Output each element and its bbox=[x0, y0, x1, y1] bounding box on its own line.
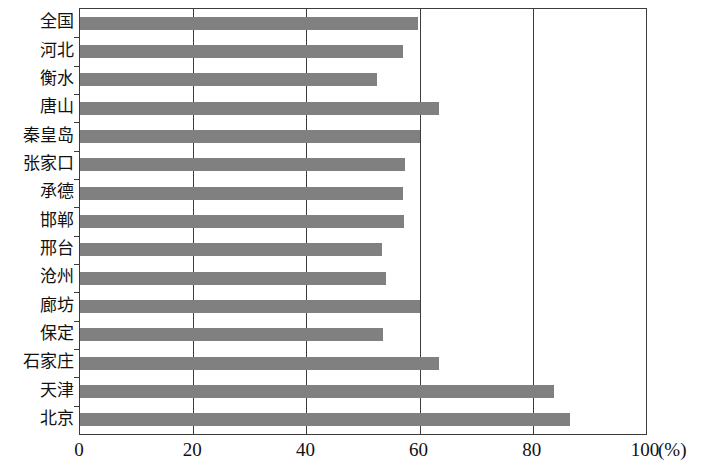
value-tick-label: 100 bbox=[631, 437, 660, 463]
horizontal-bar-chart: 全国河北衡水唐山秦皇岛张家口承德邯郸邢台沧州廊坊保定石家庄天津北京 (%) 02… bbox=[0, 0, 715, 470]
value-tick-label: 40 bbox=[296, 437, 315, 463]
category-tick bbox=[74, 207, 80, 208]
category-tick bbox=[74, 66, 80, 67]
bar bbox=[80, 385, 554, 398]
value-tick-label: 60 bbox=[409, 437, 428, 463]
gridline bbox=[533, 9, 534, 434]
bar bbox=[80, 272, 386, 285]
axis-unit-label: (%) bbox=[658, 437, 686, 463]
category-label: 张家口 bbox=[0, 154, 74, 174]
bar bbox=[80, 328, 383, 341]
value-tick-label: 20 bbox=[183, 437, 202, 463]
category-label: 承德 bbox=[0, 182, 74, 202]
bar bbox=[80, 300, 420, 313]
category-tick bbox=[74, 37, 80, 38]
category-label: 衡水 bbox=[0, 69, 74, 89]
bar bbox=[80, 243, 382, 256]
value-axis: (%) 020406080100 bbox=[0, 437, 715, 470]
gridline bbox=[420, 9, 421, 434]
value-tick-label: 0 bbox=[74, 437, 84, 463]
category-tick bbox=[74, 236, 80, 237]
bar bbox=[80, 187, 403, 200]
category-label: 保定 bbox=[0, 324, 74, 344]
category-axis: 全国河北衡水唐山秦皇岛张家口承德邯郸邢台沧州廊坊保定石家庄天津北京 bbox=[0, 8, 74, 435]
bar bbox=[80, 130, 420, 143]
category-tick bbox=[74, 122, 80, 123]
category-tick bbox=[74, 151, 80, 152]
bar bbox=[80, 102, 439, 115]
category-label: 邯郸 bbox=[0, 211, 74, 231]
category-label: 廊坊 bbox=[0, 296, 74, 316]
category-label: 河北 bbox=[0, 41, 74, 61]
category-tick bbox=[74, 349, 80, 350]
category-tick bbox=[74, 94, 80, 95]
bar bbox=[80, 158, 405, 171]
category-label: 邢台 bbox=[0, 239, 74, 259]
category-label: 秦皇岛 bbox=[0, 126, 74, 146]
plot-area bbox=[79, 8, 647, 435]
bar bbox=[80, 45, 403, 58]
bar bbox=[80, 357, 439, 370]
bar bbox=[80, 413, 570, 426]
category-tick bbox=[74, 264, 80, 265]
category-tick bbox=[74, 179, 80, 180]
category-label: 石家庄 bbox=[0, 352, 74, 372]
category-tick bbox=[74, 321, 80, 322]
value-tick-label: 80 bbox=[522, 437, 541, 463]
category-tick bbox=[74, 406, 80, 407]
bar bbox=[80, 17, 418, 30]
category-label: 全国 bbox=[0, 12, 74, 32]
category-label: 唐山 bbox=[0, 97, 74, 117]
category-label: 北京 bbox=[0, 409, 74, 429]
category-label: 沧州 bbox=[0, 267, 74, 287]
category-label: 天津 bbox=[0, 381, 74, 401]
bar bbox=[80, 215, 404, 228]
category-tick bbox=[74, 377, 80, 378]
bar bbox=[80, 73, 377, 86]
category-tick bbox=[74, 292, 80, 293]
